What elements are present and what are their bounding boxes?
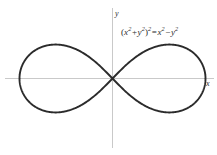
equation-annotation: (x2+y2)2=x2−y2 — [121, 28, 178, 38]
equation-exponent-4: 2 — [175, 25, 178, 32]
x-axis-label: x — [206, 80, 210, 88]
plot-canvas — [0, 0, 217, 155]
y-axis-label: y — [115, 10, 119, 18]
lemniscate-figure: y x (x2+y2)2=x2−y2 — [0, 0, 217, 155]
